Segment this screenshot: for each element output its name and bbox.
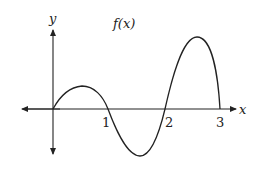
y-axis-label: y <box>48 11 57 26</box>
function-graph: y f(x) x 1 2 3 <box>0 0 256 173</box>
tick-label-2: 2 <box>165 115 173 130</box>
x-axis-label: x <box>239 102 247 117</box>
function-curve <box>53 37 220 156</box>
tick-label-3: 3 <box>216 115 224 130</box>
tick-label-1: 1 <box>102 115 110 130</box>
function-label: f(x) <box>112 16 135 31</box>
